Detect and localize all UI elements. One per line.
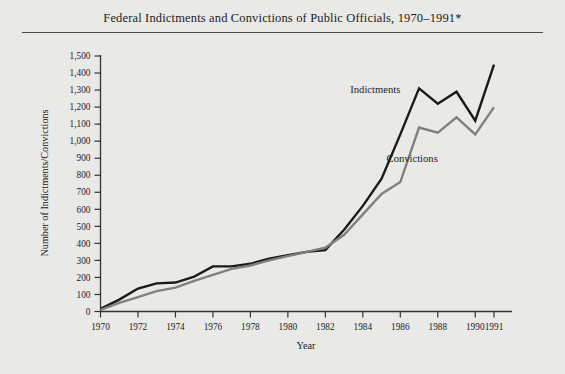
y-axis-ticks: 01002003004005006007008009001,0001,1001,…: [70, 51, 101, 317]
x-tick-label: 1972: [129, 322, 148, 332]
series-label-convictions: Convictions: [387, 153, 438, 164]
x-tick-label: 1984: [354, 322, 373, 332]
y-tick-label: 200: [77, 273, 91, 283]
x-tick-label: 1976: [204, 322, 223, 332]
y-tick-label: 100: [77, 290, 91, 300]
x-axis-ticks: 1970197219741976197819801982198419861988…: [91, 312, 503, 332]
x-tick-label: 1980: [279, 322, 298, 332]
series-annotations: IndictmentsConvictions: [350, 84, 437, 163]
y-tick-label: 1,200: [70, 102, 91, 112]
y-tick-label: 1,300: [70, 85, 91, 95]
y-tick-label: 1,400: [70, 68, 91, 78]
x-tick-label: 1986: [391, 322, 410, 332]
y-tick-label: 500: [77, 222, 91, 232]
y-tick-label: 300: [77, 256, 91, 266]
x-tick-label: 1990: [466, 322, 485, 332]
series-label-indictments: Indictments: [350, 84, 400, 95]
chart-figure: Federal Indictments and Convictions of P…: [0, 0, 565, 374]
y-tick-label: 1,000: [70, 136, 91, 146]
series-lines: [101, 65, 495, 310]
y-tick-label: 0: [86, 307, 91, 317]
y-axis-title: Number of Indictments/Convictions: [39, 109, 50, 256]
y-tick-label: 800: [77, 170, 91, 180]
y-tick-label: 600: [77, 205, 91, 215]
series-line-indictments: [101, 65, 495, 309]
series-line-convictions: [101, 107, 495, 310]
line-chart-plot: 01002003004005006007008009001,0001,1001,…: [0, 0, 565, 374]
y-tick-label: 1,100: [70, 119, 91, 129]
y-tick-label: 900: [77, 153, 91, 163]
x-tick-label: 1988: [428, 322, 447, 332]
axes: [101, 55, 513, 312]
y-tick-label: 1,500: [70, 51, 91, 61]
y-tick-label: 400: [77, 239, 91, 249]
x-tick-label: 1974: [166, 322, 185, 332]
x-axis-title: Year: [297, 340, 316, 351]
x-tick-label: 1991: [485, 322, 504, 332]
x-tick-label: 1970: [91, 322, 110, 332]
x-tick-label: 1978: [241, 322, 260, 332]
y-tick-label: 700: [77, 187, 91, 197]
x-tick-label: 1982: [316, 322, 335, 332]
